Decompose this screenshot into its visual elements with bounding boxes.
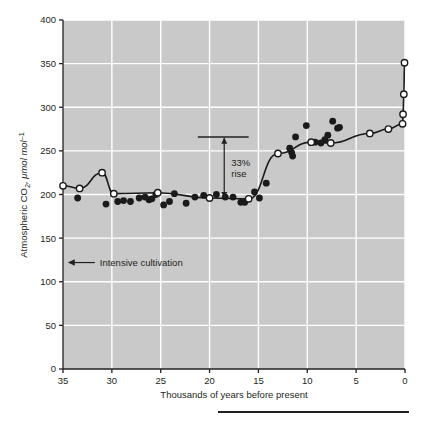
- y-tick-label-0: 0: [51, 363, 56, 374]
- data-point-filled-18: [230, 194, 237, 201]
- y-tick-label-400: 400: [40, 14, 56, 25]
- y-tick-label-100: 100: [40, 276, 56, 287]
- data-point-filled-1: [103, 201, 110, 208]
- data-point-open-8: [308, 139, 314, 145]
- x-tick-label-15: 15: [253, 375, 264, 386]
- data-point-filled-4: [127, 198, 134, 205]
- data-point-filled-3: [120, 197, 127, 204]
- y-tick-label-350: 350: [40, 58, 56, 69]
- y-tick-label-150: 150: [40, 233, 56, 244]
- data-point-open-12: [399, 121, 405, 127]
- data-point-filled-5: [136, 195, 143, 202]
- data-point-open-7: [275, 150, 281, 156]
- data-point-filled-35: [334, 125, 341, 132]
- data-point-filled-10: [160, 202, 167, 209]
- x-tick-label-25: 25: [155, 375, 166, 386]
- data-point-filled-2: [114, 198, 121, 205]
- data-point-filled-33: [329, 118, 336, 125]
- data-point-open-11: [385, 126, 391, 132]
- y-axis-tick-labels: 050100150200250300350400: [40, 14, 56, 374]
- data-point-filled-16: [213, 191, 220, 198]
- data-point-filled-22: [263, 180, 270, 187]
- data-point-filled-21: [256, 195, 263, 202]
- data-point-open-9: [328, 140, 334, 146]
- data-point-open-2: [99, 169, 105, 175]
- y-tick-label-200: 200: [40, 189, 56, 200]
- data-point-open-15: [401, 60, 407, 66]
- data-point-filled-26: [286, 145, 293, 152]
- figure-container: 050100150200250300350400 35302520151050 …: [0, 0, 423, 426]
- x-tick-label-10: 10: [302, 375, 313, 386]
- data-point-open-5: [206, 195, 212, 201]
- data-point-open-1: [76, 185, 82, 191]
- x-tick-label-0: 0: [402, 375, 407, 386]
- y-axis-title: Atmospheric CO2, μmol mol–1: [17, 132, 32, 257]
- intensive-cultivation-label: Intensive cultivation: [100, 257, 183, 268]
- y-tick-label-50: 50: [45, 320, 56, 331]
- data-point-open-13: [400, 111, 406, 117]
- data-point-filled-25: [289, 153, 296, 160]
- y-tick-label-300: 300: [40, 102, 56, 113]
- data-point-open-14: [401, 91, 407, 97]
- data-point-filled-23: [251, 188, 258, 195]
- y-tick-label-250: 250: [40, 145, 56, 156]
- data-point-open-10: [367, 130, 373, 136]
- data-point-filled-13: [183, 200, 190, 207]
- rise-label-line1: 33%: [231, 157, 251, 168]
- data-point-open-3: [111, 190, 117, 196]
- x-axis-tick-labels: 35302520151050: [58, 375, 408, 386]
- x-tick-label-30: 30: [107, 375, 118, 386]
- data-point-open-6: [245, 196, 251, 202]
- x-tick-label-35: 35: [58, 375, 69, 386]
- data-point-filled-11: [166, 198, 173, 205]
- data-point-open-4: [155, 190, 161, 196]
- x-tick-label-20: 20: [204, 375, 215, 386]
- data-point-filled-12: [171, 190, 178, 197]
- data-point-filled-32: [324, 132, 331, 139]
- rise-label-line2: rise: [231, 168, 246, 179]
- data-point-filled-27: [292, 134, 299, 141]
- data-point-filled-14: [192, 194, 199, 201]
- x-axis-title: Thousands of years before present: [160, 389, 308, 400]
- data-point-filled-28: [303, 122, 310, 129]
- data-point-open-0: [60, 183, 66, 189]
- co2-line-chart: 050100150200250300350400 35302520151050 …: [0, 0, 423, 426]
- data-point-filled-0: [74, 195, 81, 202]
- x-tick-label-5: 5: [353, 375, 358, 386]
